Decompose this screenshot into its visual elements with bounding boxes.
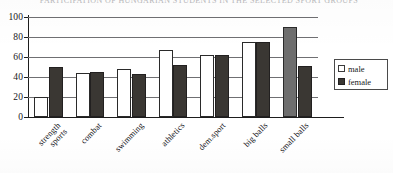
legend-swatch-female-icon: [338, 78, 345, 85]
legend-item-male: male: [338, 62, 387, 75]
x-axis-line: [28, 117, 344, 118]
bar-female-5: [256, 42, 270, 117]
gridline: [28, 17, 318, 18]
x-tick-label: small balls: [278, 121, 310, 154]
y-tick-label: 80: [13, 32, 23, 42]
y-tick-mark: [24, 57, 28, 58]
bar-female-3: [173, 65, 187, 117]
x-tick-label: dem.sport: [197, 121, 227, 152]
plot-area: 020406080100: [28, 17, 318, 117]
legend-label-female: female: [348, 77, 371, 87]
bar-male-5: [242, 42, 256, 117]
x-tick-label: strength sports: [36, 121, 68, 153]
bar-male-3: [159, 50, 173, 117]
y-tick-mark: [24, 37, 28, 38]
y-tick-label: 100: [8, 12, 23, 22]
y-tick-label: 40: [13, 72, 23, 82]
y-tick-mark: [24, 97, 28, 98]
bar-female-0: [49, 67, 63, 117]
bar-male-2: [117, 69, 131, 117]
bar-female-1: [90, 72, 104, 117]
x-tick-label: swimming: [113, 121, 145, 153]
bar-male-0: [34, 97, 48, 117]
y-tick-mark: [24, 117, 28, 118]
x-tick-label: combat: [79, 121, 103, 145]
bar-female-4: [215, 55, 229, 117]
chart-title: PARTICIPATION OF HUNGARIAN STUDENTS IN T…: [34, 0, 364, 4]
gridline: [28, 57, 318, 58]
y-tick-mark: [24, 77, 28, 78]
legend: male female: [334, 59, 388, 90]
bar-chart: PARTICIPATION OF HUNGARIAN STUDENTS IN T…: [0, 0, 393, 173]
gridline: [28, 37, 318, 38]
legend-swatch-male-icon: [338, 65, 345, 72]
bar-female-6: [298, 66, 312, 117]
legend-item-female: female: [338, 75, 387, 88]
bar-male-4: [200, 55, 214, 117]
y-tick-mark: [24, 17, 28, 18]
y-tick-label: 20: [13, 92, 23, 102]
y-tick-label: 0: [18, 112, 23, 122]
y-tick-label: 60: [13, 52, 23, 62]
x-tick-label: athletics: [160, 121, 187, 148]
bar-female-2: [132, 74, 146, 117]
bar-male-1: [76, 73, 90, 117]
legend-label-male: male: [348, 64, 365, 74]
x-tick-label: big balls: [242, 121, 269, 149]
bar-male-6: [283, 27, 297, 117]
